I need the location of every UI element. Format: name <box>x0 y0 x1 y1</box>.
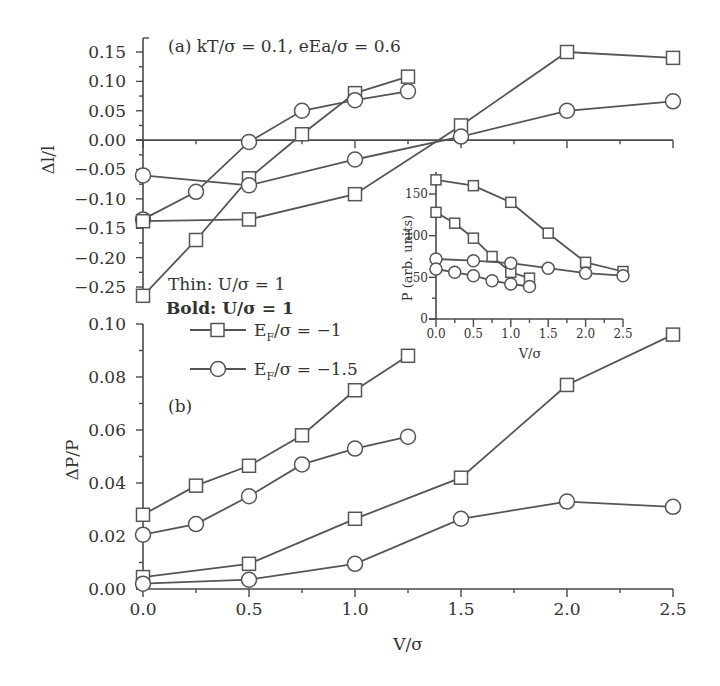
circle-marker-icon <box>666 499 681 514</box>
circle-marker-icon <box>189 184 204 199</box>
square-marker-icon <box>190 234 203 247</box>
x-tick-label: 2.0 <box>553 599 580 619</box>
x-tick-label: 2.5 <box>613 327 632 341</box>
square-marker-icon <box>137 215 150 228</box>
y-tick-label: −0.05 <box>74 159 126 179</box>
x-tick-label: 2.0 <box>576 327 595 341</box>
circle-marker-icon <box>467 270 479 282</box>
circle-marker-icon <box>505 257 517 269</box>
square-marker-icon <box>402 349 415 362</box>
panel-b-ylabel: ΔP/P <box>62 440 82 481</box>
circle-marker-icon <box>348 441 363 456</box>
circle-marker-icon <box>542 262 554 274</box>
square-marker-icon <box>349 512 362 525</box>
square-marker-icon <box>561 46 574 59</box>
square-marker-icon <box>581 257 591 267</box>
y-tick-label: 0.00 <box>88 130 126 150</box>
circle-marker-icon <box>580 267 592 279</box>
square-marker-icon <box>561 378 574 391</box>
square-marker-icon <box>487 252 497 262</box>
circle-marker-icon <box>242 134 257 149</box>
square-marker-icon <box>667 51 680 64</box>
square-marker-icon <box>190 479 203 492</box>
circle-marker-icon <box>136 168 151 183</box>
y-tick-label: 50 <box>413 271 428 285</box>
square-marker-icon <box>211 324 224 337</box>
y-tick-label: −0.25 <box>74 277 126 297</box>
series-line <box>143 356 408 515</box>
circle-marker-icon <box>189 517 204 532</box>
circle-marker-icon <box>348 93 363 108</box>
square-marker-icon <box>450 218 460 228</box>
square-marker-icon <box>506 197 516 207</box>
circle-marker-icon <box>486 275 498 287</box>
x-tick-label: 1.0 <box>341 599 368 619</box>
circle-marker-icon <box>449 266 461 278</box>
square-marker-icon <box>137 289 150 302</box>
x-tick-label: 0.5 <box>464 327 483 341</box>
figure: 0.150.100.050.00−0.05−0.10−0.15−0.20−0.2… <box>0 0 720 686</box>
circle-marker-icon <box>242 178 257 193</box>
y-tick-label: 0.00 <box>88 579 126 599</box>
circle-marker-icon <box>401 84 416 99</box>
circle-marker-icon <box>401 429 416 444</box>
square-marker-icon <box>349 384 362 397</box>
square-marker-icon <box>468 181 478 191</box>
inset-ylabel: P (arb. units) <box>400 215 415 301</box>
circle-marker-icon <box>430 263 442 275</box>
series-line <box>436 180 623 272</box>
panel-a-ylabel: Δl/l <box>38 146 58 175</box>
y-tick-label: 0.10 <box>88 314 126 334</box>
y-tick-label: 150 <box>405 187 428 201</box>
square-marker-icon <box>455 471 468 484</box>
circle-marker-icon <box>666 94 681 109</box>
square-marker-icon <box>137 508 150 521</box>
legend: Thin: U/σ = 1 Bold: U/σ = 1 EF/σ = −1 EF… <box>166 274 358 383</box>
circle-marker-icon <box>560 103 575 118</box>
circle-marker-icon <box>136 576 151 591</box>
circle-marker-icon <box>467 255 479 267</box>
square-marker-icon <box>243 213 256 226</box>
y-tick-label: −0.15 <box>74 218 126 238</box>
circle-marker-icon <box>454 129 469 144</box>
y-tick-label: −0.20 <box>74 248 126 268</box>
y-tick-label: −0.10 <box>74 189 126 209</box>
legend-bold-label: Bold: U/σ = 1 <box>166 298 294 318</box>
square-marker-icon <box>543 228 553 238</box>
x-tick-label: 0.0 <box>129 599 156 619</box>
square-marker-icon <box>296 429 309 442</box>
x-tick-label: 1.5 <box>539 327 558 341</box>
series-line <box>143 502 673 584</box>
circle-marker-icon <box>242 489 257 504</box>
square-marker-icon <box>349 188 362 201</box>
y-tick-label: 0 <box>420 312 428 326</box>
legend-label-ef-1-5: EF/σ = −1.5 <box>254 359 358 383</box>
y-tick-label: 0.05 <box>88 101 126 121</box>
panel-b-plot: 0.000.020.040.060.080.100.00.51.01.52.02… <box>88 314 686 619</box>
x-axis-label: V/σ <box>392 634 423 654</box>
square-marker-icon <box>431 175 441 185</box>
square-marker-icon <box>667 328 680 341</box>
panel-a-title: (a) kT/σ = 0.1, eEa/σ = 0.6 <box>168 36 401 56</box>
y-tick-label: 0.08 <box>88 367 126 387</box>
circle-marker-icon <box>211 362 226 377</box>
x-tick-label: 2.5 <box>659 599 686 619</box>
circle-marker-icon <box>560 494 575 509</box>
circle-marker-icon <box>136 527 151 542</box>
x-tick-label: 0.5 <box>235 599 262 619</box>
square-marker-icon <box>431 207 441 217</box>
square-marker-icon <box>402 70 415 83</box>
circle-marker-icon <box>505 278 517 290</box>
x-tick-label: 1.5 <box>447 599 474 619</box>
y-tick-label: 0.04 <box>88 473 126 493</box>
circle-marker-icon <box>348 152 363 167</box>
x-tick-label: 0.0 <box>426 327 445 341</box>
square-marker-icon <box>243 459 256 472</box>
y-tick-label: 0.02 <box>88 526 126 546</box>
panel-b-title: (b) <box>168 396 192 416</box>
legend-entry-square: EF/σ = −1 <box>190 320 342 344</box>
circle-marker-icon <box>295 103 310 118</box>
y-tick-label: 0.10 <box>88 71 126 91</box>
square-marker-icon <box>296 128 309 141</box>
x-tick-label: 1.0 <box>501 327 520 341</box>
